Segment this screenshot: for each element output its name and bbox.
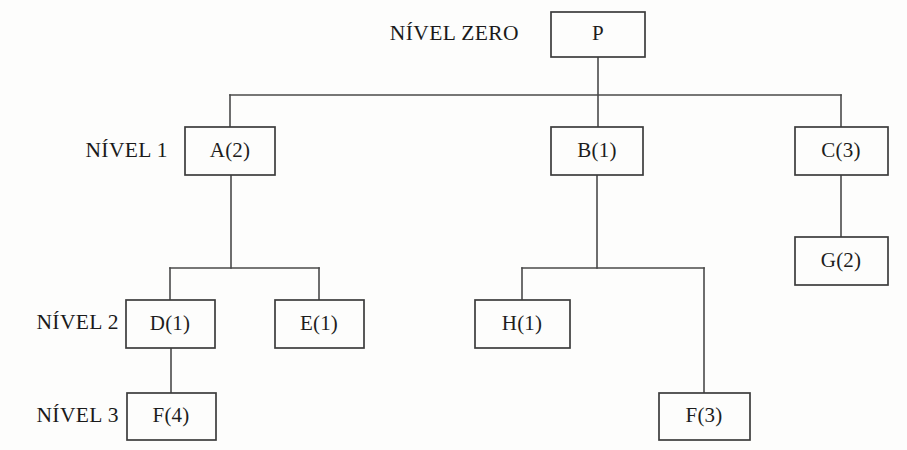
- level-label-level-3: NÍVEL 3: [36, 403, 119, 427]
- node-g-label: G(2): [821, 248, 861, 272]
- level-label-level-zero: NÍVEL ZERO: [390, 21, 519, 45]
- node-e-label: E(1): [300, 311, 338, 335]
- level-labels-group: NÍVEL ZERONÍVEL 1NÍVEL 2NÍVEL 3: [36, 21, 519, 427]
- level-label-level-2: NÍVEL 2: [36, 310, 119, 334]
- node-f4[interactable]: F(4): [127, 393, 216, 440]
- level-label-level-1: NÍVEL 1: [85, 138, 168, 162]
- bom-tree-canvas: PA(2)B(1)C(3)G(2)D(1)E(1)H(1)F(4)F(3) NÍ…: [0, 0, 907, 450]
- node-h-label: H(1): [502, 311, 542, 335]
- node-p-label: P: [592, 21, 604, 45]
- node-d[interactable]: D(1): [126, 300, 215, 348]
- node-a-label: A(2): [210, 138, 250, 162]
- node-a[interactable]: A(2): [185, 127, 275, 175]
- node-b-label: B(1): [577, 138, 616, 162]
- node-p[interactable]: P: [551, 12, 645, 57]
- node-f3-label: F(3): [686, 403, 723, 427]
- node-e[interactable]: E(1): [275, 300, 364, 348]
- node-boxes-group: PA(2)B(1)C(3)G(2)D(1)E(1)H(1)F(4)F(3): [126, 12, 888, 440]
- node-d-label: D(1): [150, 311, 190, 335]
- node-c[interactable]: C(3): [795, 127, 888, 175]
- bom-tree-diagram: PA(2)B(1)C(3)G(2)D(1)E(1)H(1)F(4)F(3) NÍ…: [0, 0, 907, 450]
- node-b[interactable]: B(1): [551, 127, 643, 175]
- node-g[interactable]: G(2): [795, 237, 888, 285]
- node-f4-label: F(4): [153, 403, 190, 427]
- node-h[interactable]: H(1): [475, 300, 570, 348]
- node-f3[interactable]: F(3): [659, 393, 750, 440]
- node-c-label: C(3): [821, 138, 860, 162]
